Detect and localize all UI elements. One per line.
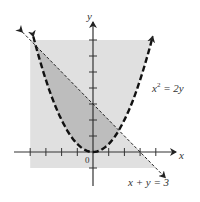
- y-axis-label: y: [86, 10, 92, 22]
- graph-figure: x y 0 x2 = 2y x + y = 3: [0, 0, 200, 202]
- line-equation-label: x + y = 3: [127, 176, 170, 188]
- parabola-equation-label: x2 = 2y: [151, 81, 184, 94]
- x-axis-label: x: [178, 149, 184, 161]
- origin-label: 0: [85, 155, 90, 165]
